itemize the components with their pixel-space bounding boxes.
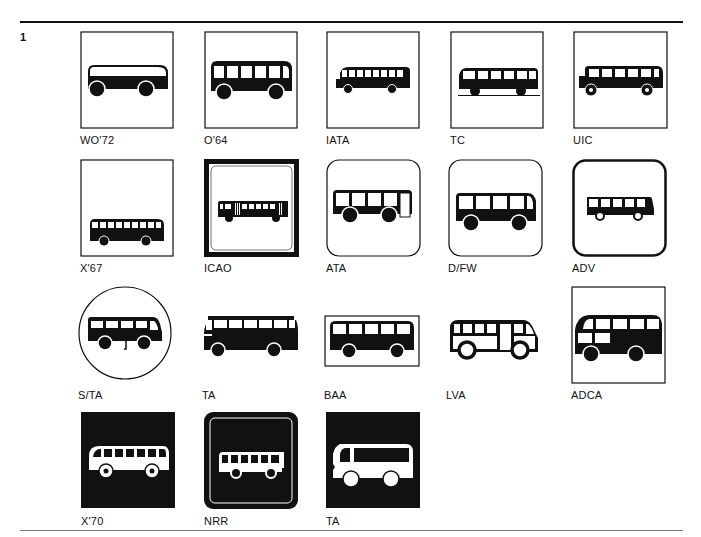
symbol-iata: IATA <box>326 31 422 151</box>
symbol-ata: ATA <box>326 159 422 279</box>
bus-icon <box>450 31 546 129</box>
symbol-label: BAA <box>324 389 347 401</box>
top-rule <box>20 21 683 23</box>
figure-number: 1 <box>20 31 26 43</box>
symbol-label: IATA <box>326 134 350 146</box>
symbol-label: NRR <box>204 515 228 527</box>
symbol-tc: TC <box>450 31 546 151</box>
symbol-label: ADCA <box>571 389 602 401</box>
symbol-label: D/FW <box>448 262 477 274</box>
bus-icon <box>326 412 422 510</box>
bus-icon <box>202 286 298 384</box>
bus-icon <box>326 31 422 129</box>
bus-icon <box>571 286 667 384</box>
bus-icon <box>80 159 176 257</box>
symbol-label: X'70 <box>81 515 103 527</box>
symbol-nrr: NRR <box>204 412 300 532</box>
bus-icon <box>572 159 668 257</box>
symbol-sta: S/TA <box>78 286 174 406</box>
symbol-ta: TA <box>202 286 298 406</box>
bus-icon <box>448 159 544 257</box>
symbol-ta-2: TA <box>326 412 422 532</box>
symbol-label: TA <box>326 515 340 527</box>
bus-icon <box>324 286 420 384</box>
bus-icon <box>204 159 300 257</box>
symbol-label: TC <box>450 134 465 146</box>
bus-icon <box>204 31 300 129</box>
bus-icon <box>446 286 542 384</box>
bus-icon <box>326 159 422 257</box>
bus-icon <box>573 31 669 129</box>
symbol-label: ADV <box>572 262 595 274</box>
symbol-wo72: WO'72 <box>80 31 176 151</box>
bus-icon <box>78 286 174 384</box>
symbol-adv: ADV <box>572 159 668 279</box>
symbol-dfw: D/FW <box>448 159 544 279</box>
symbol-label: TA <box>202 389 216 401</box>
symbol-label: O'64 <box>204 134 228 146</box>
symbol-x70: X'70 <box>81 412 177 532</box>
symbol-label: X'67 <box>80 262 102 274</box>
bottom-rule <box>20 530 683 531</box>
symbol-baa: BAA <box>324 286 420 406</box>
symbol-x67: X'67 <box>80 159 176 279</box>
symbol-label: ATA <box>326 262 346 274</box>
bus-icon <box>204 412 300 510</box>
symbol-label: LVA <box>446 389 466 401</box>
symbol-label: S/TA <box>78 389 102 401</box>
symbol-label: WO'72 <box>80 134 114 146</box>
symbol-uic: UIC <box>573 31 669 151</box>
symbol-label: ICAO <box>204 262 232 274</box>
bus-icon <box>81 412 177 510</box>
symbol-icao: ICAO <box>204 159 300 279</box>
symbol-o64: O'64 <box>204 31 300 151</box>
bus-icon <box>80 31 176 129</box>
symbol-label: UIC <box>573 134 593 146</box>
symbol-adca: ADCA <box>571 286 667 406</box>
symbol-lva: LVA <box>446 286 542 406</box>
